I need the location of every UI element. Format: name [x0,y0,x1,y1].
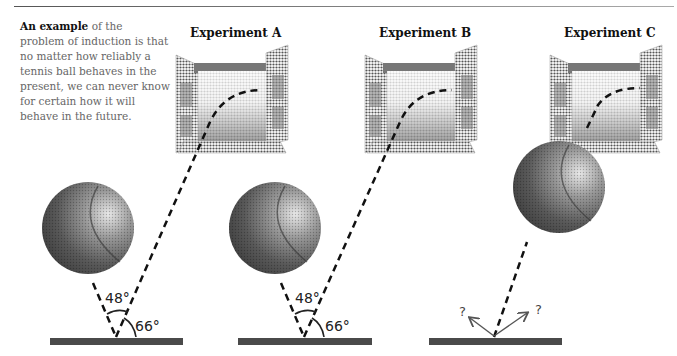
diagram-canvas [0,0,677,356]
ground-b [238,338,372,345]
angle-66-a: 66° [135,318,160,334]
arc-48-b [295,310,316,314]
window-a [176,45,288,153]
window-c [550,45,662,153]
tennis-ball-a [42,182,134,274]
arc-48-a [107,310,128,314]
arrow-left [470,318,494,336]
question-right: ? [535,302,542,317]
ground-a [50,338,183,345]
angle-66-b: 66° [325,318,350,334]
tennis-ball-b [229,182,321,274]
window-b [365,45,477,153]
angle-48-b: 48° [295,290,320,306]
ground-c [429,338,562,345]
question-left: ? [459,304,466,319]
arc-66-b [312,318,324,337]
angle-48-a: 48° [105,290,130,306]
tennis-ball-c [513,141,605,233]
